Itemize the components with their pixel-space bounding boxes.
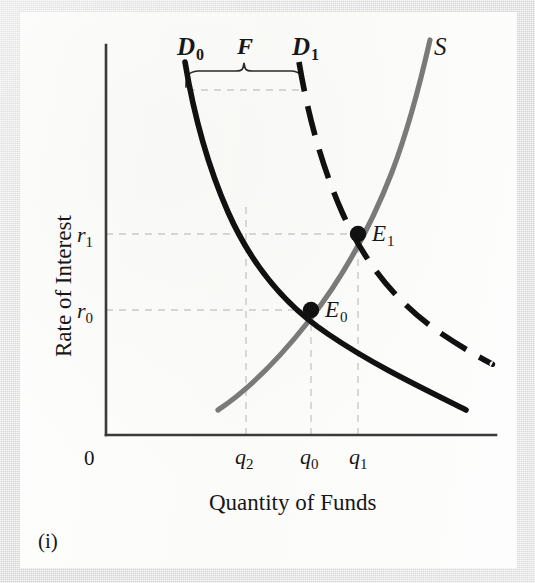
y-axis-title: Rate of Interest [52, 215, 75, 357]
origin-label: 0 [84, 448, 95, 469]
y-tick-label-r0: r0 [77, 300, 93, 322]
loanable-funds-chart [20, 12, 517, 568]
curve-label-d1: D1 [292, 34, 318, 59]
figure-card: D0 D1 F S E0 E1 r1 r0 q2 q0 q1 0 Rate of… [20, 12, 517, 568]
shift-brace [186, 63, 302, 87]
y-tick-label-r1: r1 [77, 224, 93, 246]
x-axis-title: Quantity of Funds [209, 491, 376, 514]
supply-curve [218, 40, 430, 410]
equilibrium-label-E0: E0 [325, 298, 347, 321]
figure-page: D0 D1 F S E0 E1 r1 r0 q2 q0 q1 0 Rate of… [0, 0, 535, 583]
x-tick-label-q1: q1 [349, 446, 368, 468]
shift-bracket-label-f: F [237, 34, 253, 58]
axes [106, 45, 496, 435]
panel-caption: (i) [38, 531, 58, 552]
chart-surface: D0 D1 F S E0 E1 r1 r0 q2 q0 q1 0 Rate of… [20, 12, 517, 568]
gridlines [106, 90, 358, 435]
demand-curve-d0 [185, 62, 466, 410]
equilibrium-point-E1[interactable] [350, 226, 366, 242]
x-tick-label-q2: q2 [235, 446, 254, 468]
curve-label-d0: D0 [177, 34, 203, 59]
equilibrium-label-E1: E1 [372, 222, 394, 245]
equilibrium-point-E0[interactable] [303, 302, 319, 318]
curve-label-s: S [434, 34, 447, 59]
x-tick-label-q0: q0 [300, 446, 319, 468]
